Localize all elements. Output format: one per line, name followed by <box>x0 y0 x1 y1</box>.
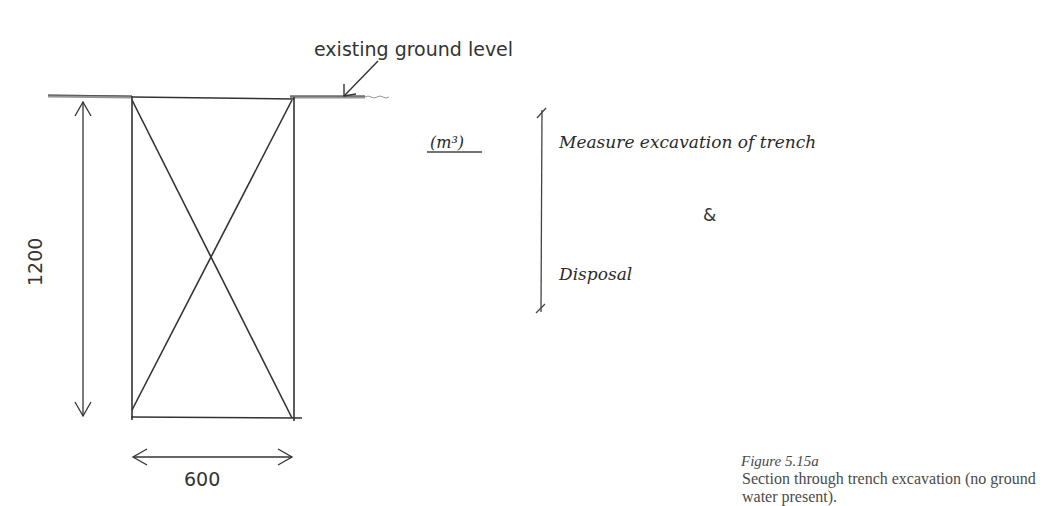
figure-number: Figure 5.15a <box>741 452 1056 470</box>
measure-text: Measure excavation of trench <box>559 132 816 152</box>
bracket-line <box>536 108 546 313</box>
caption-text: Section through trench excavation (no gr… <box>742 470 1056 506</box>
disposal-text: Disposal <box>559 264 632 284</box>
depth-label: 1200 <box>24 238 46 286</box>
ground-level-label: existing ground level <box>314 38 513 60</box>
trench-outline <box>131 96 302 421</box>
width-label: 600 <box>184 468 220 490</box>
ground-level-arrow <box>344 61 378 96</box>
unit-label: (m³) <box>430 133 464 152</box>
ampersand: & <box>703 205 716 225</box>
depth-dimension-arrow <box>75 102 91 416</box>
figure-caption: Figure 5.15a Section through trench exca… <box>742 452 1056 506</box>
width-dimension-arrow <box>133 449 292 465</box>
